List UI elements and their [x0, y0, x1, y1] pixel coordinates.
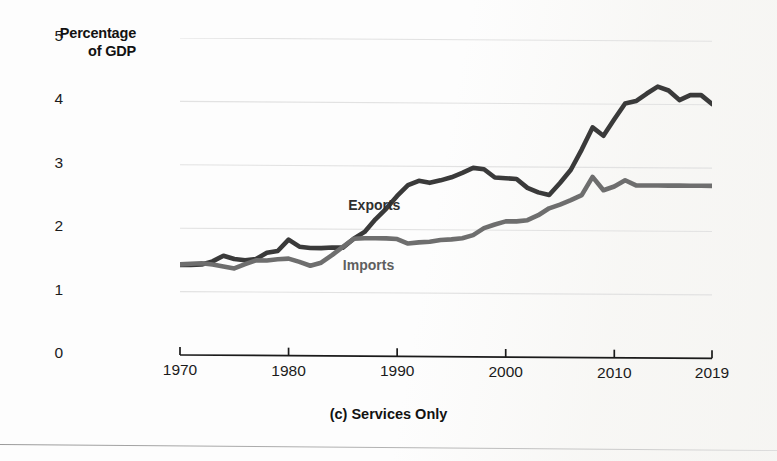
y-tick-label-2: 2 [37, 217, 63, 235]
y-tick-label-4: 4 [37, 90, 63, 108]
x-tick-label-2010: 2010 [597, 364, 631, 382]
x-tick-label-1990: 1990 [380, 362, 414, 380]
series-label-exports: Exports [348, 197, 400, 213]
gridline-2 [180, 228, 712, 231]
y-tick-label-1: 1 [37, 281, 63, 299]
x-tick-label-1970: 1970 [163, 361, 197, 379]
figure-caption: (c) Services Only [0, 406, 777, 422]
plot-area [180, 38, 712, 355]
line-chart: 012345 197019801990200020102019 Exports … [0, 0, 777, 420]
plot-svg [180, 38, 712, 355]
gridline-3 [180, 165, 712, 168]
gridline-5 [180, 38, 712, 41]
data-series [180, 87, 712, 269]
page-divider-rule [0, 444, 777, 451]
gridline-1 [180, 292, 712, 295]
x-tick-label-2019: 2019 [695, 364, 729, 382]
y-tick-label-0: 0 [37, 344, 63, 362]
x-tick-label-2000: 2000 [488, 363, 522, 381]
x-axis-line [180, 355, 712, 358]
figure-page: Percentage of GDP 012345 197019801990200… [0, 0, 777, 461]
series-label-imports: Imports [343, 257, 394, 273]
y-tick-label-5: 5 [37, 27, 63, 45]
x-tick-label-1980: 1980 [271, 362, 305, 380]
y-tick-label-3: 3 [37, 154, 63, 172]
